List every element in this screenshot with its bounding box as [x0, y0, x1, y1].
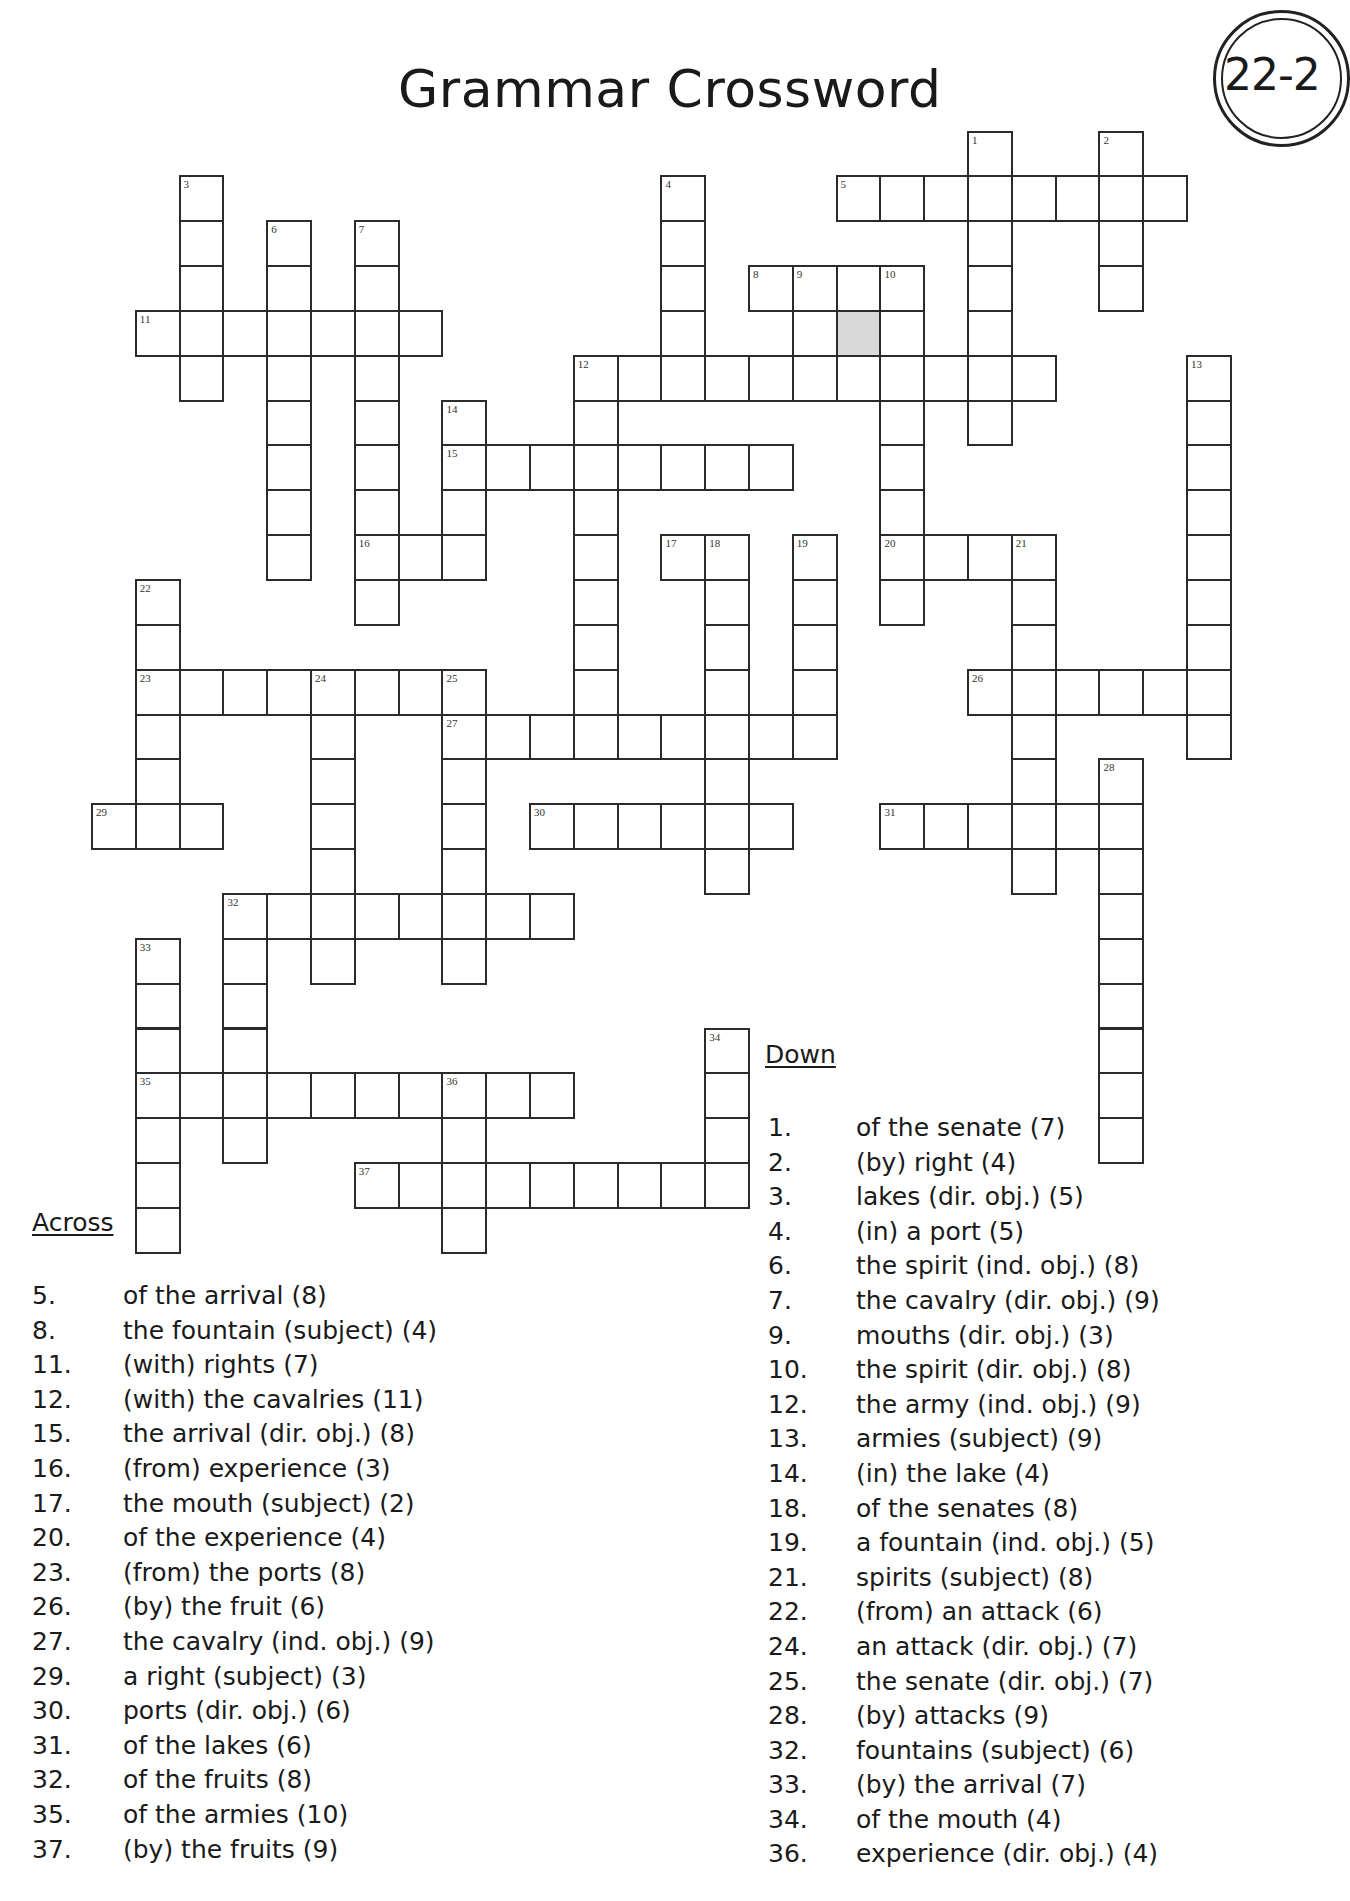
grid-cell[interactable] [179, 803, 225, 850]
grid-cell[interactable] [967, 400, 1013, 447]
grid-cell[interactable] [354, 1072, 400, 1119]
grid-cell[interactable] [222, 1117, 268, 1164]
grid-cell[interactable] [135, 714, 181, 761]
grid-cell[interactable] [441, 489, 487, 536]
grid-cell[interactable] [179, 1072, 225, 1119]
grid-cell[interactable] [485, 444, 531, 491]
grid-cell[interactable] [704, 1072, 750, 1119]
grid-cell[interactable]: 5 [836, 175, 882, 222]
grid-cell[interactable] [398, 893, 444, 940]
grid-cell[interactable] [573, 669, 619, 716]
grid-cell[interactable] [222, 669, 268, 716]
grid-cell[interactable] [441, 848, 487, 895]
grid-cell[interactable] [266, 265, 312, 312]
grid-cell[interactable] [529, 1072, 575, 1119]
grid-cell[interactable] [179, 310, 225, 357]
grid-cell[interactable] [1142, 669, 1188, 716]
grid-cell[interactable] [222, 983, 268, 1030]
grid-cell[interactable] [135, 803, 181, 850]
grid-cell[interactable]: 9 [792, 265, 838, 312]
grid-cell[interactable] [179, 355, 225, 402]
grid-cell[interactable] [573, 714, 619, 761]
grid-cell[interactable] [617, 803, 663, 850]
grid-cell[interactable] [792, 624, 838, 671]
grid-cell[interactable] [135, 983, 181, 1030]
grid-cell[interactable] [135, 1028, 181, 1075]
grid-cell[interactable] [617, 444, 663, 491]
grid-cell[interactable] [529, 893, 575, 940]
grid-cell[interactable] [792, 310, 838, 357]
grid-cell[interactable]: 4 [660, 175, 706, 222]
grid-cell[interactable] [573, 803, 619, 850]
grid-cell[interactable] [398, 669, 444, 716]
grid-cell[interactable] [1055, 803, 1101, 850]
grid-cell[interactable] [266, 355, 312, 402]
grid-cell[interactable] [441, 1207, 487, 1254]
grid-cell[interactable] [310, 848, 356, 895]
grid-cell[interactable] [441, 758, 487, 805]
grid-cell[interactable] [266, 310, 312, 357]
grid-cell[interactable]: 17 [660, 534, 706, 581]
grid-cell[interactable] [179, 220, 225, 267]
grid-cell[interactable] [748, 803, 794, 850]
grid-cell[interactable] [310, 803, 356, 850]
grid-cell[interactable] [529, 444, 575, 491]
grid-cell[interactable] [266, 1072, 312, 1119]
grid-cell[interactable] [1098, 1028, 1144, 1075]
grid-cell[interactable] [1186, 669, 1232, 716]
grid-cell[interactable] [617, 355, 663, 402]
grid-cell[interactable]: 11 [135, 310, 181, 357]
grid-cell[interactable]: 28 [1098, 758, 1144, 805]
grid-cell[interactable]: 23 [135, 669, 181, 716]
grid-cell[interactable] [660, 1162, 706, 1209]
grid-cell[interactable] [310, 938, 356, 985]
grid-cell[interactable] [792, 579, 838, 626]
grid-cell[interactable] [354, 355, 400, 402]
grid-cell[interactable]: 25 [441, 669, 487, 716]
grid-cell[interactable]: 6 [266, 220, 312, 267]
grid-cell[interactable] [485, 714, 531, 761]
grid-cell[interactable] [485, 893, 531, 940]
grid-cell[interactable]: 31 [879, 803, 925, 850]
grid-cell[interactable] [660, 714, 706, 761]
grid-cell[interactable] [179, 265, 225, 312]
grid-cell[interactable] [441, 893, 487, 940]
grid-cell[interactable] [354, 400, 400, 447]
grid-cell[interactable] [573, 579, 619, 626]
grid-cell[interactable] [485, 1162, 531, 1209]
grid-cell[interactable] [617, 714, 663, 761]
grid-cell[interactable] [923, 803, 969, 850]
grid-cell[interactable]: 18 [704, 534, 750, 581]
grid-cell[interactable] [266, 444, 312, 491]
grid-cell[interactable] [354, 444, 400, 491]
grid-cell[interactable] [529, 1162, 575, 1209]
grid-cell[interactable] [1186, 579, 1232, 626]
grid-cell[interactable] [266, 669, 312, 716]
grid-cell[interactable] [967, 220, 1013, 267]
grid-cell[interactable] [879, 579, 925, 626]
grid-cell[interactable] [1098, 983, 1144, 1030]
grid-cell[interactable] [704, 1117, 750, 1164]
grid-cell[interactable] [879, 310, 925, 357]
grid-cell[interactable] [704, 669, 750, 716]
grid-cell[interactable] [879, 175, 925, 222]
grid-cell[interactable] [923, 355, 969, 402]
grid-cell[interactable]: 15 [441, 444, 487, 491]
grid-cell[interactable] [836, 355, 882, 402]
grid-cell[interactable]: 30 [529, 803, 575, 850]
grid-cell[interactable]: 13 [1186, 355, 1232, 402]
grid-cell[interactable]: 8 [748, 265, 794, 312]
grid-cell[interactable] [310, 1072, 356, 1119]
grid-cell[interactable] [704, 444, 750, 491]
grid-cell[interactable]: 37 [354, 1162, 400, 1209]
grid-cell[interactable] [354, 489, 400, 536]
grid-cell[interactable] [441, 938, 487, 985]
grid-cell[interactable] [573, 1162, 619, 1209]
grid-cell[interactable] [266, 489, 312, 536]
grid-cell[interactable] [967, 310, 1013, 357]
grid-cell[interactable] [573, 624, 619, 671]
grid-cell[interactable] [660, 220, 706, 267]
grid-cell[interactable] [660, 355, 706, 402]
grid-cell[interactable] [354, 265, 400, 312]
grid-cell[interactable]: 10 [879, 265, 925, 312]
